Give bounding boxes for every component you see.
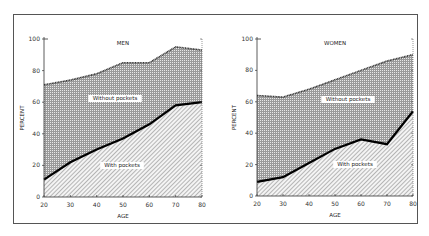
men-chart: 02040608010020304050607080MENAGEPERCENTW… — [19, 35, 206, 219]
y-tick-label: 60 — [32, 98, 40, 105]
x-tick-label: 40 — [305, 200, 313, 207]
y-tick-label: 40 — [32, 130, 40, 137]
x-tick-label: 80 — [409, 200, 417, 207]
x-tick-label: 70 — [383, 200, 391, 207]
y-tick-label: 100 — [29, 35, 41, 42]
y-tick-label: 100 — [242, 35, 254, 42]
y-tick-label: 80 — [32, 67, 40, 74]
y-tick-label: 80 — [245, 66, 253, 73]
y-tick-label: 0 — [36, 193, 40, 200]
x-axis-label: AGE — [329, 212, 341, 218]
y-axis-label: PERCENT — [231, 104, 237, 130]
y-tick-label: 40 — [245, 129, 253, 136]
y-tick-label: 20 — [245, 161, 253, 168]
x-tick-label: 50 — [331, 200, 339, 207]
x-tick-label: 60 — [146, 201, 154, 208]
x-axis-label: AGE — [117, 213, 129, 219]
x-tick-label: 80 — [198, 201, 206, 208]
x-tick-label: 40 — [93, 201, 101, 208]
y-axis-label: PERCENT — [19, 105, 25, 131]
y-tick-label: 20 — [32, 161, 40, 168]
x-tick-label: 20 — [40, 201, 48, 208]
without-pockets-label: Without pockets — [326, 96, 371, 103]
with-pockets-label: With pockets — [337, 161, 373, 168]
x-tick-label: 70 — [172, 201, 180, 208]
chart-title: MEN — [117, 40, 129, 46]
without-pockets-label: Without pockets — [93, 95, 138, 102]
women-chart: 02040608010020304050607080WOMENAGEPERCEN… — [231, 35, 417, 218]
chart-canvas: 02040608010020304050607080MENAGEPERCENTW… — [0, 0, 429, 236]
x-tick-label: 60 — [357, 200, 365, 207]
chart-title: WOMEN — [324, 40, 346, 46]
with-pockets-label: With pockets — [104, 162, 140, 169]
x-tick-label: 30 — [279, 200, 287, 207]
y-tick-label: 60 — [245, 98, 253, 105]
x-tick-label: 50 — [119, 201, 127, 208]
y-tick-label: 0 — [249, 192, 253, 199]
x-tick-label: 20 — [253, 200, 261, 207]
x-tick-label: 30 — [67, 201, 75, 208]
